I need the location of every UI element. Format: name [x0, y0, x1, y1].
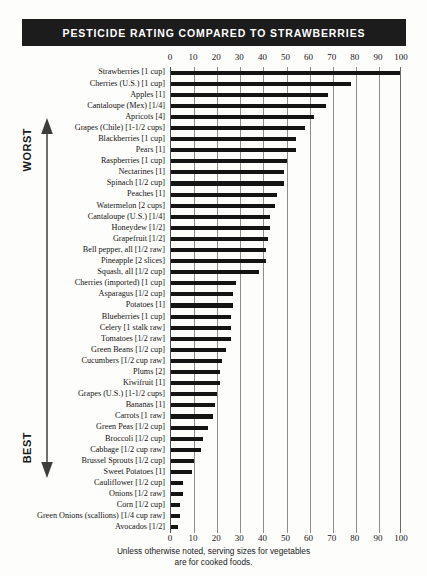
- bar: [171, 259, 266, 263]
- bar-series: [171, 67, 400, 533]
- bar-row: [171, 400, 400, 411]
- x-tick-label: 40: [258, 533, 267, 543]
- bar-row: [171, 233, 400, 244]
- chart-title-banner: PESTICIDE RATING COMPARED TO STRAWBERRIE…: [22, 19, 406, 46]
- bar: [171, 392, 217, 396]
- plot-region: [170, 67, 401, 533]
- bar: [171, 370, 220, 374]
- category-label: Peaches [1]: [0, 189, 168, 200]
- category-label: Bell pepper, all [1/2 raw]: [0, 245, 168, 256]
- category-label: Grapes (U.S.) [1-1/2 cups]: [0, 389, 168, 400]
- category-label: Avocados [1/2]: [0, 522, 168, 533]
- bar: [171, 226, 270, 230]
- bar-row: [171, 256, 400, 267]
- x-tick-label: 10: [189, 52, 198, 62]
- x-tick-label: 70: [327, 533, 336, 543]
- bar-row: [171, 322, 400, 333]
- category-label: Grapefruit [1/2]: [0, 233, 168, 244]
- bar: [171, 159, 287, 163]
- x-tick-label: 90: [373, 533, 382, 543]
- category-label: Green Onions (scallions) [1/4 cup raw]: [0, 511, 168, 522]
- bar: [171, 248, 266, 252]
- bar-row: [171, 522, 400, 533]
- bar-row: [171, 78, 400, 89]
- bar-row: [171, 500, 400, 511]
- bar: [171, 303, 233, 307]
- bar-row: [171, 245, 400, 256]
- category-label: Watermelon [2 cups]: [0, 200, 168, 211]
- bar: [171, 337, 231, 341]
- category-label: Squash, all [1/2 cup]: [0, 267, 168, 278]
- bar: [171, 193, 277, 197]
- category-label: Cauliflower [1/2 cup]: [0, 477, 168, 488]
- category-label: Apricots [4]: [0, 111, 168, 122]
- bar: [171, 326, 231, 330]
- bar: [171, 93, 328, 97]
- footer-note: Unless otherwise noted, serving sizes fo…: [0, 546, 427, 568]
- bar: [171, 514, 180, 518]
- bar-row: [171, 178, 400, 189]
- bar-row: [171, 134, 400, 145]
- x-tick-label: 100: [394, 52, 408, 62]
- category-label: Pineapple [2 slices]: [0, 256, 168, 267]
- bar: [171, 115, 314, 119]
- bar: [171, 426, 208, 430]
- x-tick-label: 20: [212, 52, 221, 62]
- bar: [171, 82, 351, 86]
- bar: [171, 492, 183, 496]
- bar: [171, 137, 296, 141]
- category-label: Asparagus [1/2 cup]: [0, 289, 168, 300]
- category-label: Honeydew [1/2]: [0, 222, 168, 233]
- category-label: Kiwifruit [1]: [0, 378, 168, 389]
- bar: [171, 437, 203, 441]
- bar: [171, 237, 268, 241]
- bar: [171, 104, 326, 108]
- x-tick-label: 100: [394, 533, 408, 543]
- bar-row: [171, 167, 400, 178]
- bar-row: [171, 67, 400, 78]
- bar-row: [171, 111, 400, 122]
- worst-label: WORST: [21, 128, 33, 171]
- x-tick-label: 10: [189, 533, 198, 543]
- bar-row: [171, 344, 400, 355]
- category-label: Carrots [1 raw]: [0, 411, 168, 422]
- bar-row: [171, 444, 400, 455]
- bar: [171, 348, 226, 352]
- bar: [171, 359, 222, 363]
- bar-row: [171, 433, 400, 444]
- bar-row: [171, 511, 400, 522]
- bar-row: [171, 189, 400, 200]
- x-tick-label: 80: [350, 52, 359, 62]
- bar: [171, 381, 220, 385]
- bar: [171, 126, 305, 130]
- category-label: Corn [1/2 cup]: [0, 500, 168, 511]
- bar: [171, 315, 231, 319]
- bar-row: [171, 477, 400, 488]
- x-tick-label: 80: [350, 533, 359, 543]
- category-label: Green Beans [1/2 cup]: [0, 344, 168, 355]
- bar: [171, 148, 296, 152]
- category-label: Cherries (U.S.) [1 cup]: [0, 78, 168, 89]
- bar-row: [171, 300, 400, 311]
- x-axis-top: 0102030405060708090100: [170, 52, 401, 65]
- bar-row: [171, 355, 400, 366]
- bar-row: [171, 367, 400, 378]
- x-tick-label: 20: [212, 533, 221, 543]
- x-axis-bottom: 0102030405060708090100: [170, 533, 401, 546]
- worst-to-best-arrow-icon: [36, 118, 58, 478]
- bar: [171, 181, 284, 185]
- bar: [171, 281, 236, 285]
- x-tick-label: 50: [281, 533, 290, 543]
- bar-row: [171, 466, 400, 477]
- page-title: PESTICIDE RATING COMPARED TO STRAWBERRIE…: [63, 27, 366, 39]
- bar-row: [171, 378, 400, 389]
- category-label: Potatoes [1]: [0, 300, 168, 311]
- x-tick-label: 30: [235, 533, 244, 543]
- bar-row: [171, 100, 400, 111]
- bar: [171, 503, 180, 507]
- bar: [171, 292, 233, 296]
- bar-row: [171, 455, 400, 466]
- bar: [171, 459, 194, 463]
- bar: [171, 525, 178, 529]
- bar-row: [171, 311, 400, 322]
